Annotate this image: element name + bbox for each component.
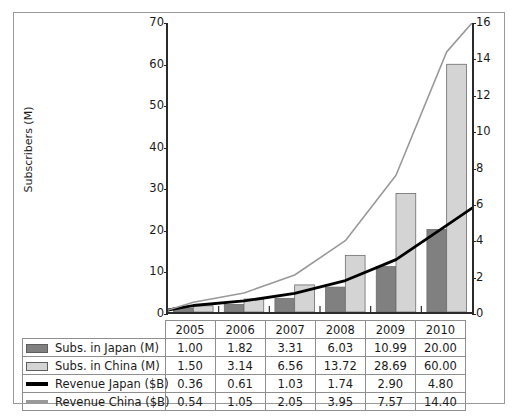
table-cell: 20.00 bbox=[415, 339, 465, 357]
table-cell: 7.57 bbox=[365, 393, 415, 411]
table-cell: 10.99 bbox=[365, 339, 415, 357]
legend-label-text: Subs. in Japan (M) bbox=[55, 341, 159, 355]
table-cell: 4.80 bbox=[415, 375, 465, 393]
table-cell: 1.00 bbox=[165, 339, 215, 357]
axis-tick-label: 50 bbox=[138, 100, 164, 112]
table-year-header: 2008 bbox=[315, 321, 365, 339]
legend-label-text: Revenue China ($B) bbox=[55, 395, 169, 409]
table-cell: 13.72 bbox=[315, 357, 365, 375]
axis-tick-label: 4 bbox=[476, 235, 502, 247]
table-year-header: 2009 bbox=[365, 321, 415, 339]
table-cell: 14.40 bbox=[415, 393, 465, 411]
legend-swatch bbox=[26, 377, 50, 391]
legend-row-label: Revenue China ($B) bbox=[23, 393, 166, 411]
table-corner-cell bbox=[23, 321, 166, 339]
legend-swatch bbox=[26, 395, 50, 409]
table-year-header: 2007 bbox=[265, 321, 315, 339]
chart-figure: Subscribers (M) Revenue ($B) 70605040302… bbox=[13, 12, 505, 404]
legend-row-label: Subs. in Japan (M) bbox=[23, 339, 166, 357]
table-cell: 1.74 bbox=[315, 375, 365, 393]
axis-tick-label: 6 bbox=[476, 199, 502, 211]
table-year-header: 2005 bbox=[165, 321, 215, 339]
table-cell: 1.05 bbox=[215, 393, 265, 411]
axis-tick-label: 20 bbox=[138, 225, 164, 237]
data-table: 200520062007200820092010Subs. in Japan (… bbox=[22, 320, 466, 411]
table-row: Subs. in China (M)1.503.146.5613.7228.69… bbox=[23, 357, 466, 375]
table-row: Subs. in Japan (M)1.001.823.316.0310.992… bbox=[23, 339, 466, 357]
axis-tick-label: 2 bbox=[476, 272, 502, 284]
axis-tick-mark bbox=[164, 314, 168, 315]
y-axis-right-ticks: 1614121086420 bbox=[476, 23, 506, 314]
axis-tick-label: 8 bbox=[476, 163, 502, 175]
table-row: Revenue China ($B)0.541.052.053.957.5714… bbox=[23, 393, 466, 411]
axis-tick-label: 0 bbox=[476, 308, 502, 320]
axis-tick-label: 16 bbox=[476, 17, 502, 29]
series-line bbox=[168, 23, 472, 310]
axis-tick-label: 14 bbox=[476, 53, 502, 65]
axis-tick-label: 10 bbox=[138, 266, 164, 278]
axis-tick-label: 10 bbox=[476, 126, 502, 138]
legend-box-icon bbox=[26, 362, 48, 371]
legend-line-icon bbox=[26, 382, 48, 386]
table-cell: 0.54 bbox=[165, 393, 215, 411]
table-cell: 2.05 bbox=[265, 393, 315, 411]
axis-tick-label: 70 bbox=[138, 17, 164, 29]
axis-tick-label: 30 bbox=[138, 183, 164, 195]
plot-area bbox=[166, 23, 474, 314]
series-line bbox=[168, 208, 472, 310]
table-cell: 1.03 bbox=[265, 375, 315, 393]
table-cell: 28.69 bbox=[365, 357, 415, 375]
table-row: Revenue Japan ($B)0.360.611.031.742.904.… bbox=[23, 375, 466, 393]
table-cell: 2.90 bbox=[365, 375, 415, 393]
table-year-header: 2010 bbox=[415, 321, 465, 339]
table-cell: 6.56 bbox=[265, 357, 315, 375]
lines-layer bbox=[168, 23, 472, 312]
table-cell: 3.95 bbox=[315, 393, 365, 411]
legend-row-label: Revenue Japan ($B) bbox=[23, 375, 166, 393]
table-cell: 3.14 bbox=[215, 357, 265, 375]
axis-tick-label: 0 bbox=[138, 308, 164, 320]
table-cell: 1.82 bbox=[215, 339, 265, 357]
table-cell: 0.61 bbox=[215, 375, 265, 393]
legend-row-label: Subs. in China (M) bbox=[23, 357, 166, 375]
legend-line-icon bbox=[26, 400, 48, 404]
axis-tick-mark bbox=[472, 314, 476, 315]
table-year-header: 2006 bbox=[215, 321, 265, 339]
table-cell: 60.00 bbox=[415, 357, 465, 375]
legend-label-text: Revenue Japan ($B) bbox=[55, 377, 169, 391]
table-cell: 3.31 bbox=[265, 339, 315, 357]
legend-swatch bbox=[26, 341, 50, 355]
table-cell: 6.03 bbox=[315, 339, 365, 357]
axis-tick-label: 12 bbox=[476, 90, 502, 102]
legend-label-text: Subs. in China (M) bbox=[55, 359, 160, 373]
axis-tick-label: 40 bbox=[138, 142, 164, 154]
axis-tick-label: 60 bbox=[138, 59, 164, 71]
legend-box-icon bbox=[26, 344, 48, 353]
y-axis-left-title: Subscribers (M) bbox=[22, 90, 35, 210]
legend-swatch bbox=[26, 359, 50, 373]
y-axis-left-ticks: 706050403020100 bbox=[134, 23, 164, 314]
table-cell: 1.50 bbox=[165, 357, 215, 375]
table-cell: 0.36 bbox=[165, 375, 215, 393]
table-header-row: 200520062007200820092010 bbox=[23, 321, 466, 339]
